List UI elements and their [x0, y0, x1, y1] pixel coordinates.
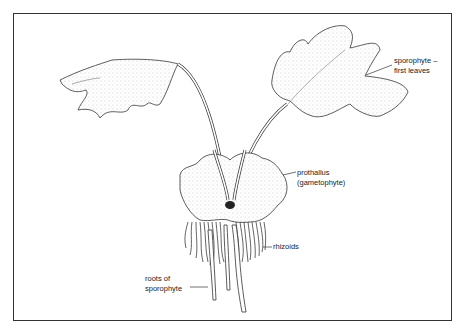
sporophyte-base [225, 201, 235, 209]
label-line: (gametophyte) [297, 178, 345, 188]
label-line: roots of [145, 274, 182, 284]
leader-prothallus [283, 172, 296, 175]
label-line: first leaves [394, 66, 437, 76]
label-rhizoids: rhizoids [273, 242, 299, 252]
prothallus [180, 153, 287, 222]
right-leaf [272, 26, 408, 117]
fern-illustration [0, 0, 465, 334]
left-leaf [60, 59, 178, 118]
label-sporophyte-first-leaves: sporophyte – first leaves [394, 56, 437, 75]
label-line: sporophyte [145, 284, 182, 294]
label-line: prothallus [297, 168, 345, 178]
label-roots-of-sporophyte: roots of sporophyte [145, 274, 182, 293]
label-prothallus: prothallus (gametophyte) [297, 168, 345, 187]
label-line: sporophyte – [394, 56, 437, 66]
